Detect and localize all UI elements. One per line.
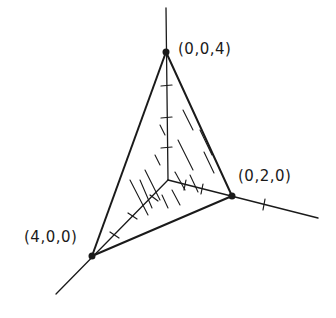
y-axis [168,180,318,218]
vertex-z [163,49,170,56]
face-hatching [130,110,214,215]
edge-x-y [92,196,232,256]
vertex-label-z: (0,0,4) [178,40,231,58]
z-axis [166,8,168,180]
edge-z-x [92,52,166,256]
vertex-label-x: (4,0,0) [24,228,77,246]
tetrahedron-diagram [0,0,336,318]
vertex-label-y: (0,2,0) [238,167,291,185]
vertex-y [229,193,236,200]
vertex-x [89,253,96,260]
